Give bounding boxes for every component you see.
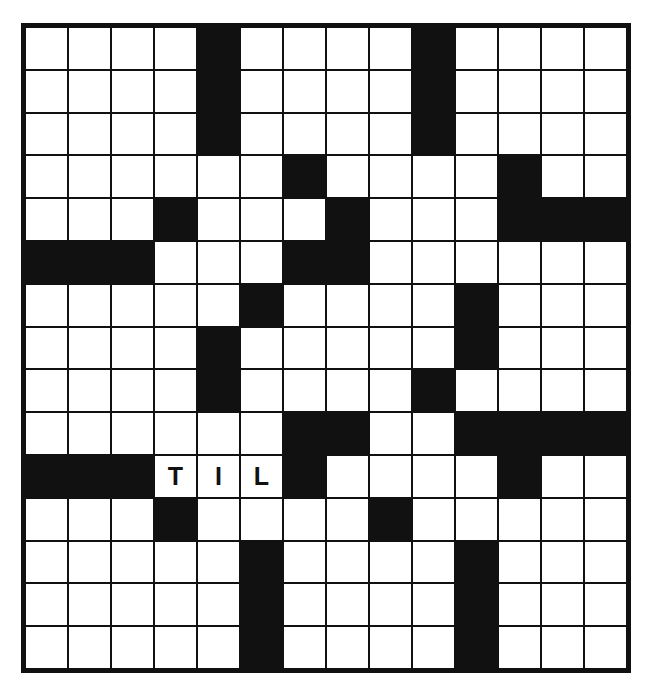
open-cell[interactable] — [456, 242, 497, 283]
open-cell[interactable] — [69, 71, 110, 112]
open-cell[interactable] — [585, 328, 626, 369]
open-cell[interactable] — [284, 285, 325, 326]
open-cell[interactable] — [112, 627, 153, 668]
open-cell[interactable] — [413, 285, 454, 326]
open-cell[interactable] — [155, 584, 196, 625]
open-cell[interactable] — [370, 114, 411, 155]
open-cell[interactable] — [370, 199, 411, 240]
open-cell[interactable] — [370, 627, 411, 668]
open-cell[interactable] — [413, 542, 454, 583]
open-cell[interactable] — [370, 542, 411, 583]
open-cell[interactable] — [69, 584, 110, 625]
open-cell[interactable] — [499, 542, 540, 583]
open-cell[interactable]: T — [155, 456, 196, 497]
open-cell[interactable] — [499, 71, 540, 112]
open-cell[interactable] — [499, 584, 540, 625]
open-cell[interactable] — [112, 285, 153, 326]
open-cell[interactable] — [327, 114, 368, 155]
open-cell[interactable] — [456, 71, 497, 112]
open-cell[interactable] — [327, 627, 368, 668]
open-cell[interactable]: I — [198, 456, 239, 497]
open-cell[interactable] — [542, 285, 583, 326]
open-cell[interactable] — [284, 584, 325, 625]
open-cell[interactable] — [585, 456, 626, 497]
open-cell[interactable] — [241, 199, 282, 240]
open-cell[interactable] — [112, 370, 153, 411]
open-cell[interactable] — [499, 28, 540, 69]
open-cell[interactable] — [112, 413, 153, 454]
open-cell[interactable] — [413, 627, 454, 668]
open-cell[interactable] — [284, 627, 325, 668]
open-cell[interactable] — [69, 413, 110, 454]
open-cell[interactable] — [284, 28, 325, 69]
open-cell[interactable] — [284, 499, 325, 540]
open-cell[interactable] — [456, 499, 497, 540]
open-cell[interactable] — [585, 627, 626, 668]
open-cell[interactable] — [69, 328, 110, 369]
open-cell[interactable] — [241, 71, 282, 112]
open-cell[interactable] — [198, 499, 239, 540]
open-cell[interactable] — [284, 71, 325, 112]
open-cell[interactable] — [499, 328, 540, 369]
open-cell[interactable] — [585, 584, 626, 625]
open-cell[interactable] — [112, 199, 153, 240]
open-cell[interactable] — [456, 456, 497, 497]
open-cell[interactable] — [542, 328, 583, 369]
open-cell[interactable] — [542, 456, 583, 497]
open-cell[interactable] — [370, 28, 411, 69]
open-cell[interactable] — [112, 71, 153, 112]
open-cell[interactable] — [26, 499, 67, 540]
open-cell[interactable] — [155, 627, 196, 668]
open-cell[interactable] — [112, 28, 153, 69]
open-cell[interactable] — [198, 542, 239, 583]
open-cell[interactable] — [241, 242, 282, 283]
open-cell[interactable] — [112, 584, 153, 625]
open-cell[interactable] — [327, 285, 368, 326]
open-cell[interactable] — [26, 199, 67, 240]
open-cell[interactable] — [370, 584, 411, 625]
open-cell[interactable] — [155, 156, 196, 197]
open-cell[interactable] — [155, 71, 196, 112]
open-cell[interactable] — [284, 542, 325, 583]
open-cell[interactable] — [499, 499, 540, 540]
open-cell[interactable] — [542, 156, 583, 197]
open-cell[interactable] — [327, 328, 368, 369]
open-cell[interactable] — [69, 199, 110, 240]
open-cell[interactable] — [585, 370, 626, 411]
open-cell[interactable] — [327, 456, 368, 497]
open-cell[interactable] — [69, 114, 110, 155]
open-cell[interactable] — [542, 499, 583, 540]
open-cell[interactable] — [585, 28, 626, 69]
open-cell[interactable] — [370, 71, 411, 112]
open-cell[interactable] — [155, 328, 196, 369]
open-cell[interactable] — [456, 156, 497, 197]
open-cell[interactable] — [26, 370, 67, 411]
open-cell[interactable] — [542, 71, 583, 112]
open-cell[interactable] — [26, 28, 67, 69]
open-cell[interactable] — [413, 328, 454, 369]
open-cell[interactable] — [198, 584, 239, 625]
open-cell[interactable] — [499, 285, 540, 326]
open-cell[interactable] — [456, 370, 497, 411]
open-cell[interactable] — [69, 156, 110, 197]
open-cell[interactable] — [198, 242, 239, 283]
open-cell[interactable] — [155, 28, 196, 69]
open-cell[interactable] — [542, 627, 583, 668]
open-cell[interactable] — [456, 28, 497, 69]
open-cell[interactable] — [198, 627, 239, 668]
open-cell[interactable] — [370, 242, 411, 283]
open-cell[interactable] — [155, 413, 196, 454]
open-cell[interactable]: L — [241, 456, 282, 497]
open-cell[interactable] — [69, 627, 110, 668]
open-cell[interactable] — [155, 114, 196, 155]
open-cell[interactable] — [284, 328, 325, 369]
open-cell[interactable] — [499, 242, 540, 283]
open-cell[interactable] — [327, 370, 368, 411]
open-cell[interactable] — [241, 499, 282, 540]
open-cell[interactable] — [327, 156, 368, 197]
open-cell[interactable] — [26, 114, 67, 155]
open-cell[interactable] — [241, 370, 282, 411]
open-cell[interactable] — [456, 199, 497, 240]
open-cell[interactable] — [327, 542, 368, 583]
open-cell[interactable] — [69, 542, 110, 583]
